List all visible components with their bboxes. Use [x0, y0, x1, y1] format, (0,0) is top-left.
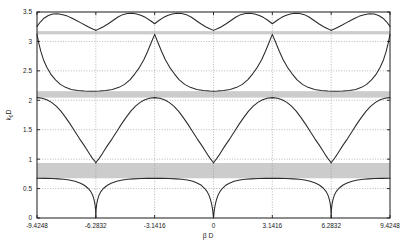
y-tick-label: 3.5: [23, 8, 32, 15]
x-tick-label: 3.1416: [263, 222, 283, 229]
y-tick-label: 1.5: [23, 126, 32, 133]
x-axis-title-text: β D: [203, 232, 214, 240]
y-tick-label: 0: [28, 214, 32, 221]
figure-container: -9.4248-6.2832-3.141603.14166.28329.4248…: [0, 0, 416, 243]
y-tick-label: 3: [28, 38, 32, 45]
x-tick-label: 6.2832: [321, 222, 341, 229]
band-diagram-chart: -9.4248-6.2832-3.141603.14166.28329.4248…: [0, 0, 416, 243]
x-tick-label: -9.4248: [26, 222, 48, 229]
x-tick-label: 9.4248: [380, 222, 400, 229]
x-axis-title: β D: [203, 232, 214, 240]
y-tick-label: 2.5: [23, 67, 32, 74]
band-gap-gap-2: [37, 91, 390, 97]
chart-background: [0, 0, 416, 243]
x-tick-label: -3.1416: [144, 222, 166, 229]
x-tick-label: 0: [212, 222, 216, 229]
y-tick-label: 1: [28, 156, 32, 163]
x-tick-label: -6.2832: [85, 222, 107, 229]
y-tick-label: 2: [28, 97, 32, 104]
band-gap-gap-3: [37, 31, 390, 34]
y-tick-label: 0.5: [23, 185, 32, 192]
y-axis-title-tail: D: [5, 109, 12, 114]
